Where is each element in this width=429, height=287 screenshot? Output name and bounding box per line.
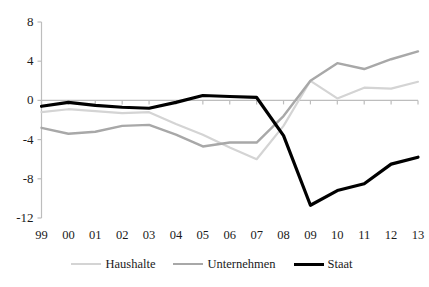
y-tick-label: -4 <box>6 133 34 146</box>
y-tick-label: -8 <box>6 172 34 185</box>
x-tick-label: 99 <box>29 229 55 242</box>
y-tick-label: -12 <box>6 211 34 224</box>
legend-line-swatch <box>173 263 203 265</box>
series-line-unternehmen <box>42 51 419 146</box>
y-tick-label: 0 <box>6 93 34 106</box>
x-tick-label: 03 <box>136 229 162 242</box>
x-tick-label: 04 <box>163 229 189 242</box>
legend-line-swatch <box>71 263 101 265</box>
y-tick-label: 8 <box>6 15 34 28</box>
x-tick-label: 11 <box>351 229 377 242</box>
y-tick-label: 4 <box>6 54 34 67</box>
series-line-haushalte <box>42 81 419 159</box>
x-tick-label: 12 <box>378 229 404 242</box>
x-tick-label: 07 <box>244 229 270 242</box>
x-tick-label: 01 <box>82 229 108 242</box>
x-tick-label: 13 <box>405 229 429 242</box>
x-tick-label: 06 <box>217 229 243 242</box>
legend-label: Unternehmen <box>207 257 275 271</box>
x-tick-label: 00 <box>55 229 81 242</box>
x-tick-label: 05 <box>190 229 216 242</box>
legend-label: Haushalte <box>105 257 155 271</box>
chart-legend: HaushalteUnternehmenStaat <box>0 257 424 271</box>
x-tick-label: 08 <box>271 229 297 242</box>
legend-item-staat[interactable]: Staat <box>294 257 353 271</box>
legend-item-unternehmen[interactable]: Unternehmen <box>173 257 275 271</box>
legend-item-haushalte[interactable]: Haushalte <box>71 257 155 271</box>
legend-line-swatch <box>294 263 324 266</box>
x-tick-label: 02 <box>109 229 135 242</box>
legend-label: Staat <box>328 257 353 271</box>
x-tick-label: 09 <box>297 229 323 242</box>
x-tick-label: 10 <box>324 229 350 242</box>
